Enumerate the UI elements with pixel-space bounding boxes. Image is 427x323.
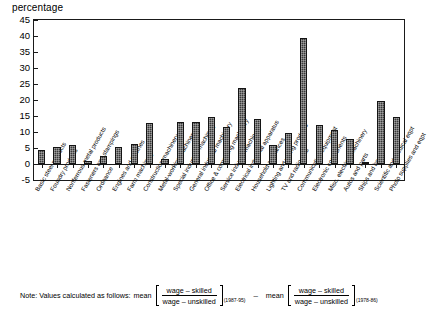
y-tick-label: 40 (8, 31, 30, 41)
note-period-2: (1978-86) (356, 296, 378, 306)
y-tick-label: 10 (8, 127, 30, 137)
bracket-close-2 (352, 285, 355, 306)
bar (69, 145, 76, 164)
x-tick-mark (288, 164, 289, 168)
note-mean-1: mean (134, 291, 153, 300)
bracket-open-1 (156, 285, 159, 306)
x-tick-mark (103, 164, 104, 168)
y-tick-label: -5 (8, 175, 30, 185)
bar (331, 130, 338, 164)
x-tick-mark (196, 164, 197, 168)
bar (269, 145, 276, 164)
bar (53, 147, 60, 164)
y-axis-ticks: 454035302520151050-5 (4, 20, 30, 180)
y-tick-label: 45 (8, 15, 30, 25)
x-tick-mark (73, 164, 74, 168)
bar (146, 123, 153, 164)
chart-note: Note: Values calculated as follows: mean… (20, 285, 378, 306)
bracket-open-2 (288, 285, 291, 306)
x-tick-mark (350, 164, 351, 168)
y-tick-label: 35 (8, 47, 30, 57)
x-tick-mark (335, 164, 336, 168)
x-tick-mark (319, 164, 320, 168)
bar (208, 117, 215, 164)
x-tick-mark (165, 164, 166, 168)
y-tick-label: 25 (8, 79, 30, 89)
bar (254, 119, 261, 164)
bar (131, 144, 138, 164)
x-tick-mark (381, 164, 382, 168)
y-tick-label: 20 (8, 95, 30, 105)
x-tick-mark (227, 164, 228, 168)
fraction-1-numerator: wage – skilled (166, 286, 213, 296)
x-tick-mark (396, 164, 397, 168)
y-tick-label: 5 (8, 143, 30, 153)
x-tick-mark (42, 164, 43, 168)
fraction-2: wage – skilled wage – unskilled (292, 286, 351, 306)
bar (192, 122, 199, 164)
y-tick-label: 15 (8, 111, 30, 121)
bar (346, 139, 353, 164)
bar (38, 150, 45, 164)
x-tick-mark (119, 164, 120, 168)
zero-baseline (34, 164, 404, 165)
fraction-1-denominator: wage – unskilled (162, 295, 217, 306)
bar (100, 156, 107, 164)
x-tick-mark (180, 164, 181, 168)
x-tick-mark (150, 164, 151, 168)
note-operator: – (248, 291, 262, 300)
bar (177, 122, 184, 164)
bar (300, 38, 307, 164)
x-tick-mark (365, 164, 366, 168)
y-tick-label: 30 (8, 63, 30, 72)
x-tick-mark (211, 164, 212, 168)
bar (223, 127, 230, 164)
x-tick-mark (57, 164, 58, 168)
bracket-close-1 (220, 285, 223, 306)
note-expression-1: wage – skilled wage – unskilled (1987-95… (156, 285, 246, 306)
note-period-1: (1987-95) (224, 296, 246, 306)
x-tick-mark (273, 164, 274, 168)
x-tick-mark (258, 164, 259, 168)
bar (285, 133, 292, 164)
y-axis-title: percentage (12, 2, 63, 13)
fraction-1: wage – skilled wage – unskilled (160, 286, 219, 306)
note-expression-2: wage – skilled wage – unskilled (1978-86… (288, 285, 378, 306)
y-tick-label: 0 (8, 159, 30, 169)
bar (238, 88, 245, 164)
fraction-2-numerator: wage – skilled (298, 286, 345, 296)
fraction-2-denominator: wage – unskilled (294, 295, 349, 306)
x-tick-mark (134, 164, 135, 168)
x-tick-mark (242, 164, 243, 168)
x-tick-mark (88, 164, 89, 168)
x-tick-mark (304, 164, 305, 168)
note-mean-2: mean (266, 291, 285, 300)
bar (316, 125, 323, 164)
bar (377, 101, 384, 164)
note-prefix: Note: Values calculated as follows: (20, 291, 131, 300)
bar (393, 117, 400, 164)
bar (115, 147, 122, 164)
